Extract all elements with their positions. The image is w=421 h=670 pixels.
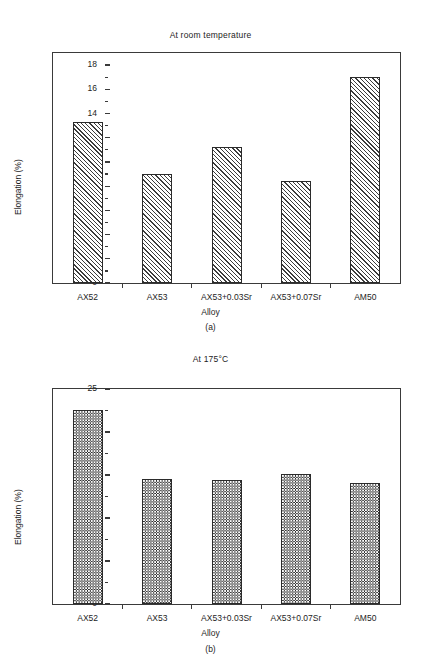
x-tick-mark	[261, 604, 262, 609]
bar-AX53	[142, 479, 172, 604]
x-tick-mark	[191, 604, 192, 609]
bar-AX53-0-03Sr	[212, 147, 242, 283]
bar-AX53	[142, 174, 172, 283]
x-tick-mark	[330, 604, 331, 609]
bar-AM50	[350, 77, 380, 283]
figure-panel-b: At 175°C Elongation (%) 0510152025 AX52A…	[0, 340, 421, 670]
bars-layer-b: AX52AX53AX53+0.03SrAX53+0.07SrAM50	[53, 389, 400, 604]
y-axis-title-b: Elongation (%)	[13, 489, 23, 545]
plot-area-b: 0510152025 AX52AX53AX53+0.03SrAX53+0.07S…	[52, 388, 401, 605]
plot-area-a: 024681012141618 AX52AX53AX53+0.03SrAX53+…	[52, 52, 401, 284]
x-tick-label: AM50	[320, 613, 410, 623]
bar-AX53-0-07Sr	[281, 474, 311, 604]
panel-label-b: (b)	[0, 644, 421, 654]
x-axis-title-b: Alloy	[0, 628, 421, 638]
y-axis-title-a: Elongation (%)	[13, 159, 23, 215]
chart-title-a: At room temperature	[0, 30, 421, 40]
bar-AX52	[73, 122, 103, 283]
chart-title-b: At 175°C	[0, 354, 421, 364]
panel-label-a: (a)	[0, 322, 421, 332]
x-tick-mark	[330, 283, 331, 288]
bar-AX53-0-03Sr	[212, 480, 242, 604]
x-tick-label: AM50	[320, 292, 410, 302]
bar-AX52	[73, 410, 103, 604]
x-tick-mark	[122, 283, 123, 288]
bars-layer-a: AX52AX53AX53+0.03SrAX53+0.07SrAM50	[53, 53, 400, 283]
x-tick-mark	[191, 283, 192, 288]
bar-AM50	[350, 483, 380, 604]
x-axis-title-a: Alloy	[0, 307, 421, 317]
bar-AX53-0-07Sr	[281, 181, 311, 283]
x-tick-mark	[122, 604, 123, 609]
x-tick-mark	[261, 283, 262, 288]
figure-panel-a: At room temperature Elongation (%) 02468…	[0, 0, 421, 340]
